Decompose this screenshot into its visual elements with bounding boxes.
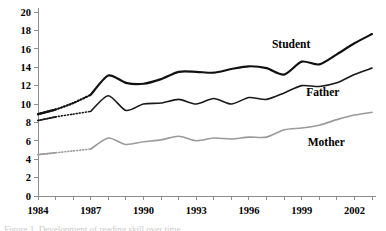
figure-caption: Figure 1. Development of reading skill o… [4, 224, 382, 231]
y-tick-label: 0 [26, 191, 31, 202]
y-tick-label: 18 [21, 25, 32, 36]
x-tick-label: 1987 [80, 205, 101, 216]
x-tick-label: 1993 [186, 205, 207, 216]
y-tick-label: 10 [21, 99, 32, 110]
series-line-mother-start [38, 153, 56, 155]
x-tick-label: 1996 [238, 205, 259, 216]
series-line-student-start [38, 110, 56, 115]
y-tick-label: 4 [26, 154, 32, 165]
series-label-mother: Mother [308, 136, 345, 148]
line-chart-canvas: 0246810121416182019841987199019931996199… [0, 0, 386, 231]
y-tick-label: 2 [26, 172, 31, 183]
x-tick-label: 1984 [28, 205, 50, 216]
y-tick-label: 6 [26, 136, 31, 147]
y-tick-label: 20 [21, 7, 32, 18]
y-tick-label: 8 [26, 117, 31, 128]
series-label-student: Student [272, 38, 311, 50]
x-tick-label: 1999 [291, 205, 312, 216]
y-tick-label: 14 [21, 62, 32, 73]
y-tick-label: 16 [21, 44, 32, 55]
chart-figure: 0246810121416182019841987199019931996199… [0, 0, 386, 231]
series-label-father: Father [306, 86, 339, 98]
x-tick-label: 2002 [344, 205, 365, 216]
series-line-father-start [38, 117, 56, 121]
x-tick-label: 1990 [133, 205, 154, 216]
y-tick-label: 12 [21, 80, 32, 91]
